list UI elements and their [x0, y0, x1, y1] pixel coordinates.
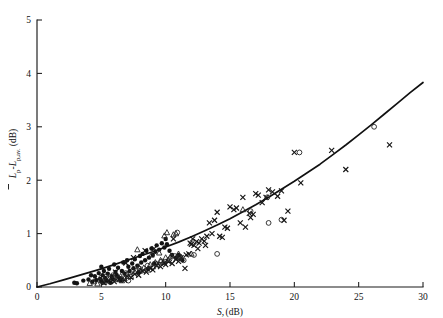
axis-titles: S,(dB) Lp-Lp,av.(dB) — [8, 129, 243, 318]
x-label-symbol: S, — [217, 307, 224, 317]
point-cross — [275, 194, 280, 199]
point-filled-circle — [102, 269, 106, 273]
point-cross — [202, 239, 207, 244]
tick-labels: 051015202530012345 — [26, 15, 428, 302]
y-tick-label-5: 5 — [26, 15, 31, 25]
y-tick-label-3: 3 — [26, 122, 31, 132]
x-tick-label-10: 10 — [161, 292, 171, 302]
point-cross — [243, 225, 248, 230]
point-open-circle — [248, 209, 253, 214]
point-open-circle — [266, 221, 271, 226]
fitted-curve — [37, 82, 423, 287]
point-cross — [212, 218, 217, 223]
y-axis-label-text: Lp-Lp,av.(dB) — [8, 129, 21, 179]
y-tick-label-1: 1 — [26, 229, 31, 239]
y-tick-label-2: 2 — [26, 176, 31, 186]
point-cross — [207, 220, 212, 225]
point-cross — [203, 243, 208, 248]
point-filled-circle — [107, 267, 111, 271]
y-tick-label-0: 0 — [26, 282, 31, 292]
x-tick-label-0: 0 — [35, 292, 40, 302]
axes — [37, 20, 423, 287]
point-open-triangle — [162, 233, 167, 238]
point-cross — [204, 234, 209, 239]
figure-container: 051015202530012345 S,(dB) Lp-Lp,av.(dB) — [0, 0, 443, 318]
point-cross — [215, 210, 220, 215]
point-cross — [292, 150, 297, 155]
point-filled-circle — [93, 274, 97, 278]
point-cross — [195, 246, 200, 251]
series-cross — [101, 142, 392, 285]
point-filled-circle — [75, 281, 79, 285]
y-label-symbol-2: -L — [8, 161, 18, 169]
point-filled-circle — [89, 273, 93, 277]
point-cross — [298, 180, 303, 185]
point-filled-circle — [116, 266, 120, 270]
x-axis-label: S,(dB) — [217, 307, 243, 318]
x-tick-label-15: 15 — [225, 292, 235, 302]
point-filled-circle — [143, 258, 147, 262]
x-label-unit: (dB) — [226, 307, 243, 318]
point-open-circle — [215, 251, 220, 256]
y-label-sub-2: p,av. — [14, 148, 21, 161]
point-filled-circle — [99, 265, 103, 269]
point-cross — [387, 142, 392, 147]
point-filled-circle — [130, 261, 134, 265]
point-filled-circle — [165, 242, 169, 246]
point-cross — [238, 220, 243, 225]
point-open-circle — [297, 150, 302, 155]
y-label-unit: (dB) — [8, 129, 19, 146]
tick-marks — [37, 20, 423, 287]
scatter-plot: 051015202530012345 S,(dB) Lp-Lp,av.(dB) — [0, 0, 443, 318]
point-cross — [343, 167, 348, 172]
point-filled-circle — [112, 262, 116, 266]
point-filled-circle — [139, 260, 143, 264]
y-tick-label-4: 4 — [26, 69, 31, 79]
point-filled-circle — [160, 241, 164, 245]
point-cross — [209, 231, 214, 236]
x-tick-label-20: 20 — [290, 292, 300, 302]
point-filled-circle — [81, 278, 85, 282]
x-tick-label-30: 30 — [418, 292, 428, 302]
point-cross — [329, 148, 334, 153]
x-tick-label-5: 5 — [99, 292, 104, 302]
point-cross — [285, 209, 290, 214]
point-filled-circle — [97, 271, 101, 275]
x-tick-label-25: 25 — [354, 292, 364, 302]
trend-curve — [37, 82, 423, 287]
y-axis-label: Lp-Lp,av.(dB) — [8, 129, 21, 190]
point-open-triangle — [135, 247, 140, 252]
series-open-circle — [99, 124, 377, 283]
point-cross — [182, 266, 187, 271]
point-cross — [248, 215, 253, 220]
point-cross — [240, 195, 245, 200]
point-filled-circle — [167, 248, 171, 252]
point-open-circle — [372, 124, 377, 129]
